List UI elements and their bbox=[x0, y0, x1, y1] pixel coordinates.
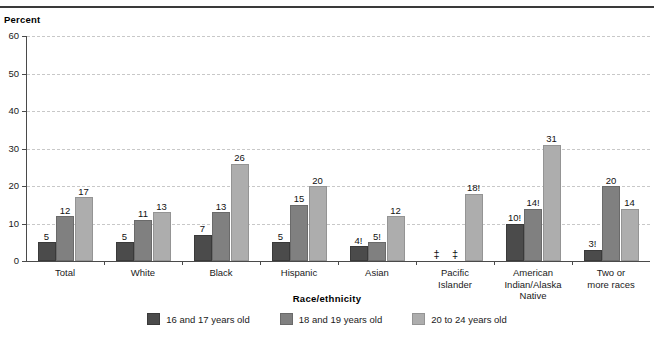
y-tick bbox=[22, 74, 27, 75]
x-axis-title: Race/ethnicity bbox=[0, 293, 654, 304]
bar-group: 51520 bbox=[272, 36, 327, 261]
y-tick-label: 50 bbox=[8, 69, 19, 79]
top-divider bbox=[0, 6, 654, 8]
bar-group: 51217 bbox=[38, 36, 93, 261]
bar-value-label: 7 bbox=[200, 224, 205, 234]
bar-value-label: 5 bbox=[44, 232, 49, 242]
bar-group: 51113 bbox=[116, 36, 171, 261]
y-tick-label: 60 bbox=[8, 31, 19, 41]
suppressed-value-marker: ‡ bbox=[446, 249, 464, 260]
bar-group: 71326 bbox=[194, 36, 249, 261]
x-axis-group-label: Asian bbox=[338, 267, 416, 279]
bar-value-label: 13 bbox=[156, 202, 167, 212]
y-tick bbox=[22, 224, 27, 225]
bar-value-label: 12 bbox=[60, 206, 71, 216]
legend-label: 18 and 19 years old bbox=[299, 314, 382, 325]
bar-value-label: 13 bbox=[216, 202, 227, 212]
x-axis-group-label: Hispanic bbox=[260, 267, 338, 279]
bar-value-label: 17 bbox=[78, 187, 89, 197]
bar[interactable]: 5 bbox=[38, 242, 56, 261]
bar[interactable]: 13 bbox=[212, 212, 230, 261]
bar-value-label: 20 bbox=[312, 176, 323, 186]
y-tick bbox=[22, 149, 27, 150]
legend-item[interactable]: 20 to 24 years old bbox=[412, 313, 507, 325]
bar[interactable]: 20 bbox=[309, 186, 327, 261]
bar[interactable]: 17 bbox=[75, 197, 93, 261]
legend-swatch bbox=[147, 313, 160, 325]
x-tick bbox=[260, 261, 261, 265]
bar[interactable]: 14 bbox=[621, 209, 639, 262]
bar-value-label: 12 bbox=[390, 206, 401, 216]
plot-area: 0102030405060 512175111371326515204!5!12… bbox=[26, 36, 650, 261]
bar-value-label: 14! bbox=[526, 198, 539, 208]
y-tick-label: 30 bbox=[8, 144, 19, 154]
legend-label: 16 and 17 years old bbox=[166, 314, 249, 325]
x-tick bbox=[494, 261, 495, 265]
bar[interactable]: 14! bbox=[524, 209, 542, 262]
bar[interactable]: 5! bbox=[368, 242, 386, 261]
bar-value-label: 3! bbox=[589, 239, 597, 249]
legend-swatch bbox=[412, 313, 425, 325]
bar[interactable]: 18! bbox=[465, 194, 483, 262]
x-tick bbox=[104, 261, 105, 265]
bar-value-label: 18! bbox=[467, 183, 480, 193]
x-tick bbox=[338, 261, 339, 265]
bar-value-label: 5! bbox=[373, 232, 381, 242]
x-axis-group-label: Pacific Islander bbox=[416, 267, 494, 290]
chart-legend: 16 and 17 years old18 and 19 years old20… bbox=[0, 313, 654, 325]
bar[interactable]: 31 bbox=[543, 145, 561, 261]
legend-item[interactable]: 16 and 17 years old bbox=[147, 313, 249, 325]
y-tick bbox=[22, 186, 27, 187]
chart-figure: Percent 0102030405060 512175111371326515… bbox=[0, 0, 654, 344]
legend-label: 20 to 24 years old bbox=[431, 314, 507, 325]
x-axis-group-label: Two or more races bbox=[572, 267, 650, 290]
bar-group: ‡‡18! bbox=[428, 36, 483, 261]
y-tick bbox=[22, 36, 27, 37]
bar-value-label: 4! bbox=[355, 236, 363, 246]
y-tick bbox=[22, 111, 27, 112]
bar[interactable]: 11 bbox=[134, 220, 152, 261]
bar-value-label: 14 bbox=[624, 198, 635, 208]
y-tick-label: 40 bbox=[8, 106, 19, 116]
y-tick-label: 0 bbox=[14, 256, 19, 266]
x-axis-group-label: White bbox=[104, 267, 182, 279]
x-tick bbox=[572, 261, 573, 265]
bar[interactable]: 5 bbox=[116, 242, 134, 261]
bar-group: 4!5!12 bbox=[350, 36, 405, 261]
bar-value-label: 5 bbox=[122, 232, 127, 242]
x-axis-group-label: Black bbox=[182, 267, 260, 279]
bar-value-label: 10! bbox=[508, 213, 521, 223]
bar[interactable]: 13 bbox=[153, 212, 171, 261]
bar-value-label: 20 bbox=[606, 176, 617, 186]
x-tick bbox=[416, 261, 417, 265]
bar[interactable]: 20 bbox=[602, 186, 620, 261]
bar[interactable]: 5 bbox=[272, 242, 290, 261]
bar-value-label: 26 bbox=[234, 153, 245, 163]
suppressed-value-marker: ‡ bbox=[428, 249, 446, 260]
bar-value-label: 11 bbox=[138, 209, 148, 219]
bar-group: 10!14!31 bbox=[506, 36, 561, 261]
bar[interactable]: 26 bbox=[231, 164, 249, 262]
y-axis-title: Percent bbox=[4, 14, 40, 25]
y-tick bbox=[22, 261, 27, 262]
bar-group: 3!2014 bbox=[584, 36, 639, 261]
bar[interactable]: 10! bbox=[506, 224, 524, 262]
legend-swatch bbox=[280, 313, 293, 325]
y-tick-label: 10 bbox=[8, 219, 19, 229]
bar-value-label: 15 bbox=[294, 194, 305, 204]
legend-item[interactable]: 18 and 19 years old bbox=[280, 313, 382, 325]
bar[interactable]: 12 bbox=[56, 216, 74, 261]
x-tick bbox=[182, 261, 183, 265]
bar-value-label: 5 bbox=[278, 232, 283, 242]
bar-value-label: 31 bbox=[546, 134, 557, 144]
bar[interactable]: 4! bbox=[350, 246, 368, 261]
bar[interactable]: 3! bbox=[584, 250, 602, 261]
y-tick-label: 20 bbox=[8, 181, 19, 191]
x-axis-group-label: Total bbox=[26, 267, 104, 279]
bar[interactable]: 15 bbox=[290, 205, 308, 261]
bar[interactable]: 7 bbox=[194, 235, 212, 261]
bar[interactable]: 12 bbox=[387, 216, 405, 261]
